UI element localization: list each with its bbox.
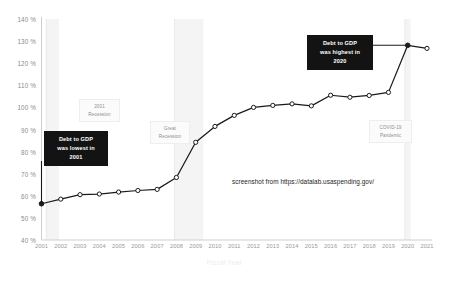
data-point-2003: [78, 193, 82, 197]
x-tick-2019: 2019: [382, 243, 395, 249]
x-tick-2012: 2012: [247, 243, 260, 249]
data-point-2018: [367, 93, 371, 97]
recession-2001-line-1: 2001: [83, 103, 116, 111]
data-point-2011: [232, 113, 236, 117]
callout-lowest-line-1: Debt to GDP: [49, 135, 103, 144]
y-tick-70: 70 %: [10, 170, 36, 177]
data-point-2007: [155, 187, 159, 191]
data-point-2006: [136, 188, 140, 192]
annotation-covid-label: COVID-19 Pandemic: [369, 120, 412, 143]
x-tick-2017: 2017: [343, 243, 356, 249]
x-axis-title: Fiscal Year: [0, 259, 449, 266]
data-point-2014: [290, 102, 294, 106]
data-point-2017: [348, 95, 352, 99]
recession-2001-line-2: Recession: [83, 111, 116, 119]
y-tick-90: 90 %: [10, 126, 36, 133]
covid-line-2: Pandemic: [373, 132, 408, 140]
x-tick-2005: 2005: [112, 243, 125, 249]
recession-band-1: [46, 19, 59, 240]
data-point-2008: [174, 175, 178, 179]
x-tick-2003: 2003: [74, 243, 87, 249]
data-point-2019: [386, 90, 390, 94]
x-tick-2011: 2011: [228, 243, 241, 249]
x-tick-2009: 2009: [189, 243, 202, 249]
x-tick-2008: 2008: [170, 243, 183, 249]
callout-highest-line-2: was highest in: [312, 48, 368, 57]
y-tick-40: 40 %: [10, 237, 36, 244]
source-attribution-note: screenshot from https://datalab.usaspend…: [232, 178, 374, 185]
data-point-2012: [251, 105, 255, 109]
y-tick-120: 120 %: [10, 60, 36, 67]
data-point-2021: [425, 46, 429, 50]
chart-container: 40 %50 %60 %70 %80 %90 %100 %110 %120 %1…: [0, 0, 449, 282]
x-tick-2013: 2013: [266, 243, 279, 249]
y-tick-100: 100 %: [10, 104, 36, 111]
data-point-2010: [213, 124, 217, 128]
annotation-recession-2001-label: 2001 Recession: [79, 99, 120, 122]
data-point-2013: [271, 103, 275, 107]
callout-lowest-line-2: was lowest in: [49, 144, 103, 153]
data-point-2015: [309, 104, 313, 108]
data-point-2005: [117, 190, 121, 194]
callout-highest-line-3: 2020: [312, 57, 368, 66]
x-tick-2018: 2018: [363, 243, 376, 249]
x-tick-2006: 2006: [131, 243, 144, 249]
great-recession-line-2: Recession: [154, 133, 186, 141]
data-point-2004: [97, 192, 101, 196]
y-tick-80: 80 %: [10, 148, 36, 155]
x-tick-2002: 2002: [54, 243, 67, 249]
x-tick-2015: 2015: [305, 243, 318, 249]
x-tick-2014: 2014: [286, 243, 299, 249]
x-tick-2016: 2016: [324, 243, 337, 249]
x-tick-2010: 2010: [208, 243, 221, 249]
annotation-great-recession-label: Great Recession: [150, 121, 190, 144]
x-tick-2004: 2004: [93, 243, 106, 249]
x-tick-2020: 2020: [401, 243, 414, 249]
y-tick-60: 60 %: [10, 192, 36, 199]
x-tick-2021: 2021: [420, 243, 433, 249]
great-recession-line-1: Great: [154, 125, 186, 133]
covid-line-1: COVID-19: [373, 124, 408, 132]
data-point-2002: [59, 197, 63, 201]
data-point-2001: [39, 201, 44, 206]
callout-lowest-line-3: 2001: [49, 153, 103, 162]
x-tick-2001: 2001: [35, 243, 48, 249]
data-point-2009: [194, 140, 198, 144]
annotation-lowest-callout: Debt to GDP was lowest in 2001: [44, 131, 108, 166]
callout-highest-line-1: Debt to GDP: [312, 39, 368, 48]
y-tick-130: 130 %: [10, 38, 36, 45]
y-tick-110: 110 %: [10, 82, 36, 89]
data-point-2020: [405, 43, 410, 48]
data-point-2016: [329, 93, 333, 97]
x-tick-2007: 2007: [151, 243, 164, 249]
y-tick-50: 50 %: [10, 214, 36, 221]
annotation-highest-callout: Debt to GDP was highest in 2020: [307, 35, 373, 70]
y-tick-140: 140 %: [10, 16, 36, 23]
